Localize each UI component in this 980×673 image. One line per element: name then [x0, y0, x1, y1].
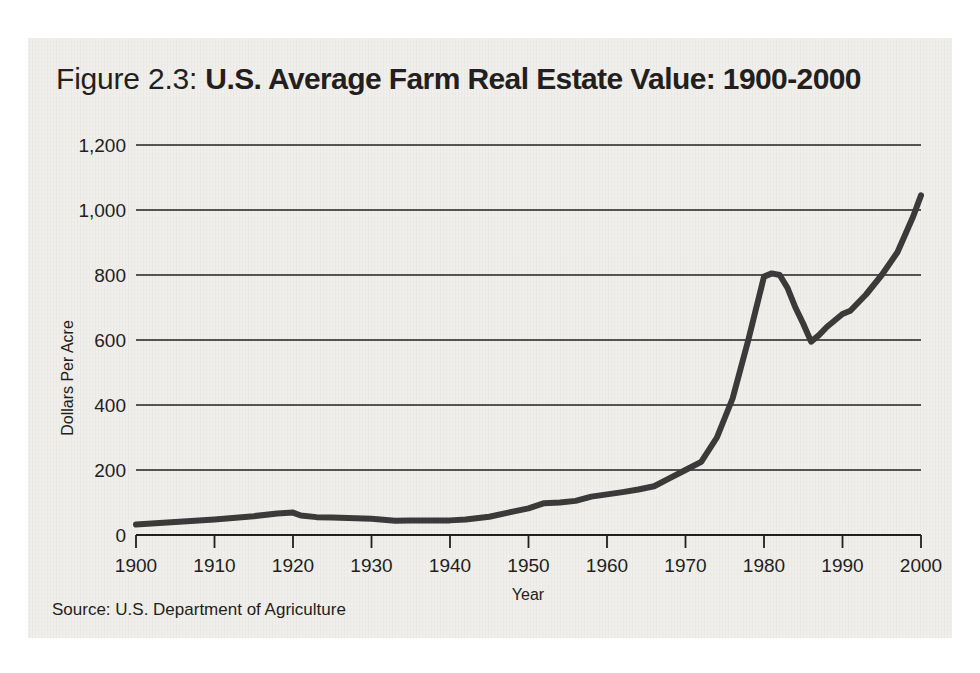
y-tick-label-1000: 1,000 — [78, 200, 126, 221]
y-tick-label-800: 800 — [94, 265, 126, 286]
x-axis-tick-marks — [136, 535, 921, 548]
y-axis-tick-labels: 1,200 1,000 800 600 400 200 0 — [78, 135, 126, 546]
x-tick-label-1940: 1940 — [429, 555, 471, 576]
x-tick-label-1970: 1970 — [664, 555, 706, 576]
y-tick-label-200: 200 — [94, 460, 126, 481]
y-axis-title: Dollars Per Acre — [59, 320, 76, 436]
x-tick-label-1960: 1960 — [586, 555, 628, 576]
x-tick-label-1900: 1900 — [115, 555, 157, 576]
x-tick-label-1990: 1990 — [821, 555, 863, 576]
x-tick-label-1910: 1910 — [193, 555, 235, 576]
figure-container: Figure 2.3: U.S. Average Farm Real Estat… — [0, 0, 980, 673]
x-tick-label-1950: 1950 — [507, 555, 549, 576]
x-tick-label-1980: 1980 — [743, 555, 785, 576]
y-tick-label-400: 400 — [94, 395, 126, 416]
x-axis-title: Year — [512, 586, 545, 603]
x-tick-label-2000: 2000 — [900, 555, 942, 576]
x-tick-label-1920: 1920 — [272, 555, 314, 576]
x-axis-tick-labels: 1900 1910 1920 1930 1940 1950 1960 1970 … — [115, 555, 942, 576]
y-tick-label-600: 600 — [94, 330, 126, 351]
y-tick-label-1200: 1,200 — [78, 135, 126, 156]
line-chart: Dollars Per Acre 1,200 1,000 800 600 400… — [28, 38, 952, 638]
data-line-farm-value — [136, 195, 921, 524]
source-note: Source: U.S. Department of Agriculture — [52, 600, 346, 620]
y-tick-label-0: 0 — [115, 525, 126, 546]
gridlines — [136, 145, 921, 470]
x-tick-label-1930: 1930 — [350, 555, 392, 576]
